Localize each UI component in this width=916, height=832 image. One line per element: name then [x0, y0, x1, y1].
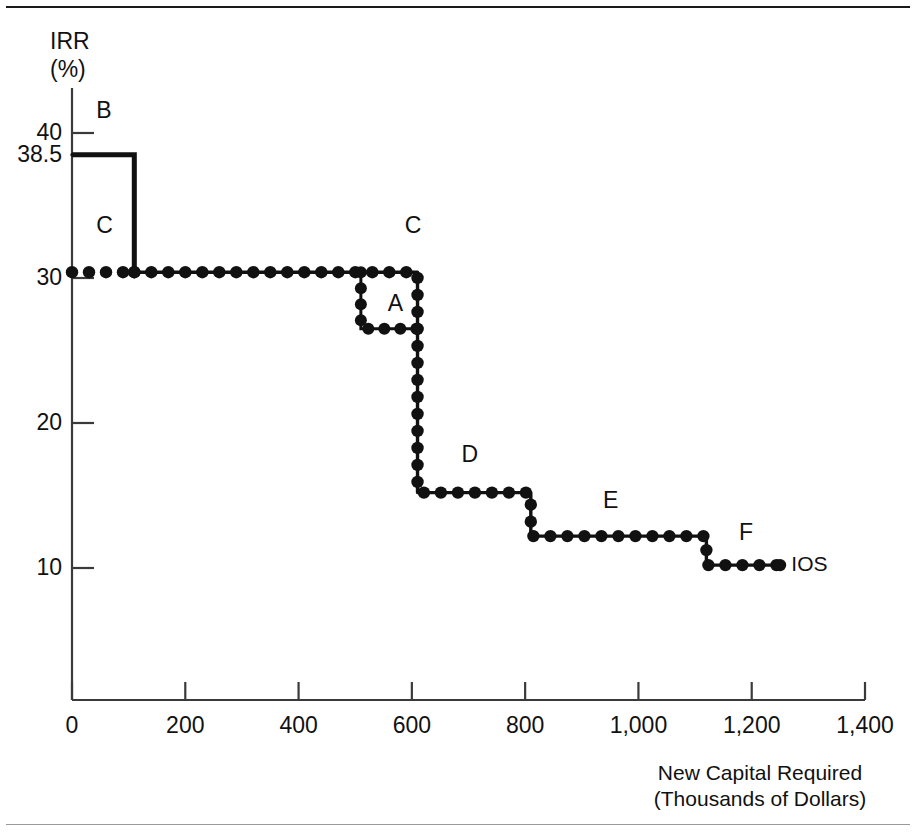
ios-curve-bead — [486, 486, 498, 498]
ios-curve-bead — [162, 266, 174, 278]
y-tick-label-20: 20 — [0, 411, 62, 434]
ios-curve-bead — [561, 530, 573, 542]
y-axis-title-line2: (%) — [50, 58, 86, 81]
ios-curve-bead — [411, 289, 423, 301]
ios-curve-bead — [595, 530, 607, 542]
ios-curve-bead — [264, 266, 276, 278]
ios-curve-bead — [281, 266, 293, 278]
ios-step-chart — [0, 0, 916, 832]
ios-curve-bead — [503, 486, 515, 498]
y-tick-label-30: 30 — [0, 266, 62, 289]
chart-page: IRR (%) New Capital Required (Thousands … — [0, 0, 916, 832]
ios-curve-bead — [411, 459, 423, 471]
ios-curve-bead — [469, 486, 481, 498]
project-A-bead — [362, 323, 374, 335]
ios-curve-bead — [128, 266, 140, 278]
y-tick-label-10: 10 — [0, 556, 62, 579]
ios-curve-bead — [418, 486, 430, 498]
y-tick-label-38-5: 38.5 — [0, 143, 62, 166]
ios-curve-bead — [719, 559, 731, 571]
ios-curve-bead — [612, 530, 624, 542]
ios-curve-bead — [411, 357, 423, 369]
ios-curve-bead — [702, 559, 714, 571]
ios-curve-bead — [578, 530, 590, 542]
ios-curve-bead — [145, 266, 157, 278]
y-tick-label-40: 40 — [0, 121, 62, 144]
ios-curve-bead — [66, 266, 78, 278]
y-axis-title-line1: IRR — [50, 30, 90, 53]
project-label-E: E — [603, 489, 618, 512]
project-A-bead — [355, 298, 367, 310]
ios-curve-bead — [100, 266, 112, 278]
ios-curve-bead — [411, 306, 423, 318]
ios-curve-bead — [411, 340, 423, 352]
ios-curve-bead — [629, 530, 641, 542]
project-label-F: F — [739, 521, 753, 544]
ios-curve-bead — [452, 486, 464, 498]
ios-curve-bead — [298, 266, 310, 278]
project-label-C: C — [96, 214, 113, 237]
ios-curve-bead — [411, 442, 423, 454]
ios-curve-bead — [774, 559, 786, 571]
ios-curve-bead — [411, 272, 423, 284]
ios-curve-bead — [411, 374, 423, 386]
ios-curve-bead — [383, 266, 395, 278]
ios-curve-bead — [700, 544, 712, 556]
ios-curve-bead — [680, 530, 692, 542]
project-A-bead — [355, 266, 367, 278]
ios-curve-bead — [663, 530, 675, 542]
x-axis-caption-line1: New Capital Required — [610, 760, 910, 786]
ios-curve-bead — [753, 559, 765, 571]
ios-curve-bead — [646, 530, 658, 542]
ios-curve-bead — [230, 266, 242, 278]
project-label-B: B — [96, 99, 111, 122]
ios-curve-bead — [315, 266, 327, 278]
ios-curve-bead — [525, 516, 537, 528]
ios-curve-bead — [213, 266, 225, 278]
project-A-bead — [394, 323, 406, 335]
x-tick-label-1200: 1,200 — [702, 714, 802, 737]
ios-curve-bead — [527, 530, 539, 542]
x-tick-label-1000: 1,000 — [588, 714, 688, 737]
ios-curve-bead — [411, 425, 423, 437]
project-label-A: A — [388, 292, 403, 315]
x-tick-label-200: 200 — [135, 714, 235, 737]
ios-curve-bead — [332, 266, 344, 278]
ios-curve-bead — [196, 266, 208, 278]
project-label-D: D — [462, 443, 479, 466]
ios-curve-bead — [400, 266, 412, 278]
project-label-C: C — [405, 214, 422, 237]
ios-curve-bead — [525, 499, 537, 511]
ios-curve-bead — [520, 486, 532, 498]
project-A-bead — [412, 323, 424, 335]
x-tick-label-1400: 1,400 — [815, 714, 915, 737]
x-tick-label-400: 400 — [249, 714, 349, 737]
x-tick-label-0: 0 — [22, 714, 122, 737]
x-tick-label-800: 800 — [475, 714, 575, 737]
project-A-bead — [378, 323, 390, 335]
ios-curve-bead — [366, 266, 378, 278]
ios-curve-bead — [411, 408, 423, 420]
ios-curve-bead — [435, 486, 447, 498]
ios-curve-bead — [697, 530, 709, 542]
x-axis-caption-line2: (Thousands of Dollars) — [610, 786, 910, 812]
ios-curve-label: IOS — [791, 553, 827, 574]
ios-curve-bead — [544, 530, 556, 542]
ios-curve-bead — [411, 391, 423, 403]
ios-curve-bead — [736, 559, 748, 571]
ios-curve-bead — [247, 266, 259, 278]
ios-curve-bead — [83, 266, 95, 278]
ios-curve-bead — [179, 266, 191, 278]
ios-step-curve — [72, 155, 780, 565]
x-tick-label-600: 600 — [362, 714, 462, 737]
ios-curve-bead — [117, 266, 129, 278]
ios-curve-bead — [411, 476, 423, 488]
project-A-bead — [355, 282, 367, 294]
